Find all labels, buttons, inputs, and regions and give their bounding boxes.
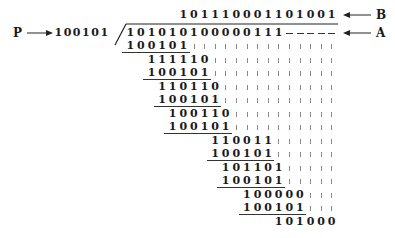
bring-down-tick xyxy=(310,112,311,117)
bring-down-tick xyxy=(300,112,301,117)
step-digit: 0 xyxy=(199,94,210,106)
step-digit: 0 xyxy=(231,135,242,147)
bring-down-tick xyxy=(331,152,332,157)
bring-down-tick xyxy=(215,58,216,63)
step-digit: 0 xyxy=(284,189,295,201)
padding-dash xyxy=(286,33,293,34)
bring-down-tick xyxy=(278,98,279,103)
step-digit: 1 xyxy=(273,162,284,174)
bring-down-tick xyxy=(257,44,258,49)
bring-down-tick xyxy=(321,71,322,76)
bring-down-tick xyxy=(289,71,290,76)
dividend-arrow-icon xyxy=(343,30,371,36)
step-digit: 0 xyxy=(263,162,274,174)
bring-down-tick xyxy=(321,193,322,198)
bring-down-tick xyxy=(236,85,237,90)
bring-down-tick xyxy=(289,44,290,49)
bring-down-tick xyxy=(300,125,301,130)
dividend-label: A xyxy=(376,27,385,39)
bring-down-tick xyxy=(331,58,332,63)
step-digit: 0 xyxy=(326,216,337,228)
step-digit: 1 xyxy=(178,40,189,52)
bring-down-tick xyxy=(310,152,311,157)
step-digit: 1 xyxy=(273,175,284,187)
dividend-digit: 1 xyxy=(252,27,263,39)
step-digit: 1 xyxy=(167,54,178,66)
dividend-digit: 0 xyxy=(136,27,147,39)
step-digit: 1 xyxy=(210,148,221,160)
quotient-label: B xyxy=(376,9,386,21)
quotient-arrow-icon xyxy=(343,12,371,18)
bring-down-tick xyxy=(257,98,258,103)
bring-down-tick xyxy=(289,85,290,90)
bring-down-tick xyxy=(278,85,279,90)
quotient-digit: 0 xyxy=(189,9,200,21)
step-digit: 0 xyxy=(284,216,295,228)
step-digit: 1 xyxy=(157,81,168,93)
bring-down-tick xyxy=(300,179,301,184)
step-digit: 1 xyxy=(157,40,168,52)
bring-down-tick xyxy=(310,58,311,63)
step-digit: 0 xyxy=(136,40,147,52)
step-digit: 0 xyxy=(305,216,316,228)
bring-down-tick xyxy=(331,193,332,198)
bring-down-tick xyxy=(268,98,269,103)
step-digit: 1 xyxy=(263,135,274,147)
step-digit: 0 xyxy=(263,189,274,201)
step-digit: 0 xyxy=(252,189,263,201)
bring-down-tick xyxy=(300,58,301,63)
bring-down-tick xyxy=(289,125,290,130)
bring-down-tick xyxy=(268,58,269,63)
bring-down-tick xyxy=(257,58,258,63)
bring-down-tick xyxy=(321,125,322,130)
bring-down-tick xyxy=(331,71,332,76)
step-digit: 0 xyxy=(231,148,242,160)
bring-down-tick xyxy=(300,152,301,157)
step-digit: 0 xyxy=(210,121,221,133)
bring-down-tick xyxy=(310,166,311,171)
dividend-digit: 1 xyxy=(146,27,157,39)
bring-down-tick xyxy=(225,71,226,76)
bring-down-tick xyxy=(331,98,332,103)
step-digit: 0 xyxy=(242,175,253,187)
padding-dash xyxy=(328,33,335,34)
step-digit: 1 xyxy=(199,67,210,79)
quotient-digit: 0 xyxy=(305,9,316,21)
bring-down-tick xyxy=(278,125,279,130)
step-digit: 1 xyxy=(125,40,136,52)
bring-down-tick xyxy=(321,166,322,171)
step-digit: 1 xyxy=(199,108,210,120)
quotient-digit: 1 xyxy=(210,9,221,21)
step-digit: 0 xyxy=(189,67,200,79)
step-digit: 1 xyxy=(295,202,306,214)
step-digit: 1 xyxy=(199,121,210,133)
step-digit: 0 xyxy=(167,40,178,52)
step-digit: 1 xyxy=(189,54,200,66)
quotient-digit: 0 xyxy=(316,9,327,21)
bring-down-tick xyxy=(257,125,258,130)
step-digit: 1 xyxy=(178,54,189,66)
bring-down-tick xyxy=(289,139,290,144)
bring-down-tick xyxy=(331,112,332,117)
step-digit: 0 xyxy=(252,202,263,214)
bring-down-tick xyxy=(321,112,322,117)
bring-down-tick xyxy=(321,152,322,157)
bring-down-tick xyxy=(300,98,301,103)
step-digit: 0 xyxy=(273,189,284,201)
bring-down-tick xyxy=(310,85,311,90)
bring-down-tick xyxy=(278,71,279,76)
bring-down-tick xyxy=(331,44,332,49)
bring-down-tick xyxy=(225,85,226,90)
bring-down-tick xyxy=(236,44,237,49)
bring-down-tick xyxy=(321,85,322,90)
bring-down-tick xyxy=(278,44,279,49)
bring-down-tick xyxy=(321,206,322,211)
bring-down-tick xyxy=(257,85,258,90)
bring-down-tick xyxy=(247,85,248,90)
bring-down-tick xyxy=(268,125,269,130)
bring-down-tick xyxy=(257,71,258,76)
step-digit: 0 xyxy=(231,162,242,174)
divisor-digit: 1 xyxy=(99,27,110,39)
bring-down-tick xyxy=(321,98,322,103)
step-digit: 0 xyxy=(146,40,157,52)
